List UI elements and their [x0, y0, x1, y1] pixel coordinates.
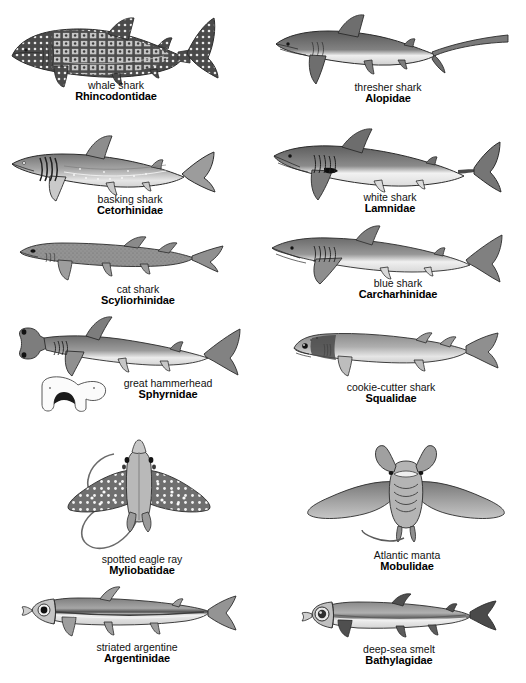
deep-sea-smelt-illustration — [300, 592, 500, 644]
illustration-plate: whale shark Rhincodontidae — [0, 0, 526, 683]
caption-atlantic-manta: Atlantic manta Mobulidae — [322, 550, 492, 573]
caption-striated-argentine: striated argentine Argentinidae — [52, 642, 222, 665]
caption-thresher-shark: thresher shark Alopidae — [308, 82, 468, 105]
thresher-shark-illustration — [272, 14, 512, 86]
caption-spotted-eagle-ray: spotted eagle ray Myliobatidae — [62, 554, 222, 577]
family-name-whale-shark: Rhincodontidae — [36, 91, 196, 103]
family-name-spotted-eagle-ray: Myliobatidae — [62, 565, 222, 577]
caption-white-shark: white shark Lamnidae — [310, 192, 470, 215]
family-name-basking-shark: Cetorhinidae — [50, 205, 210, 217]
family-name-atlantic-manta: Mobulidae — [322, 561, 492, 573]
family-name-deep-sea-smelt: Bathylagidae — [314, 655, 484, 667]
family-name-great-hammerhead: Sphyrnidae — [78, 389, 258, 401]
striated-argentine-illustration — [22, 586, 242, 644]
basking-shark-illustration — [8, 134, 226, 202]
caption-whale-shark: whale shark Rhincodontidae — [36, 80, 196, 103]
great-hammerhead-illustration — [14, 318, 244, 380]
family-name-striated-argentine: Argentinidae — [52, 653, 222, 665]
caption-cat-shark: cat shark Scyliorhinidae — [58, 284, 218, 307]
family-name-white-shark: Lamnidae — [310, 203, 470, 215]
caption-basking-shark: basking shark Cetorhinidae — [50, 194, 210, 217]
family-name-cat-shark: Scyliorhinidae — [58, 295, 218, 307]
atlantic-manta-illustration — [300, 442, 512, 554]
whale-shark-illustration — [8, 16, 223, 88]
caption-great-hammerhead: great hammerhead Sphyrnidae — [78, 378, 258, 401]
caption-deep-sea-smelt: deep-sea smelt Bathylagidae — [314, 644, 484, 667]
family-name-thresher-shark: Alopidae — [308, 93, 468, 105]
cat-shark-illustration — [16, 232, 226, 284]
family-name-cookie-cutter-shark: Squalidae — [306, 393, 476, 405]
caption-cookie-cutter-shark: cookie-cutter shark Squalidae — [306, 382, 476, 405]
cookie-cutter-shark-illustration — [288, 326, 503, 380]
caption-blue-shark: blue shark Carcharhinidae — [318, 278, 478, 301]
family-name-blue-shark: Carcharhinidae — [318, 289, 478, 301]
spotted-eagle-ray-illustration — [56, 436, 226, 558]
